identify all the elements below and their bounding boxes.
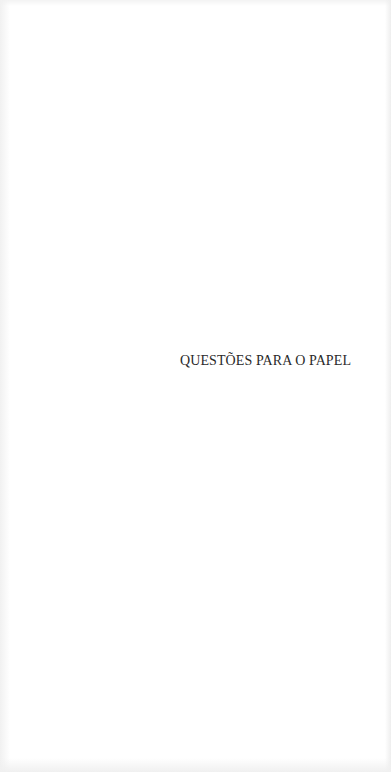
page-edge-right-shadow bbox=[385, 0, 391, 772]
book-page: QUESTÕES PARA O PAPEL bbox=[0, 0, 391, 772]
page-edge-bottom-shadow bbox=[0, 758, 391, 772]
page-edge-top-shadow bbox=[0, 0, 391, 6]
part-title: QUESTÕES PARA O PAPEL bbox=[180, 353, 340, 369]
page-edge-left-shadow bbox=[0, 0, 10, 772]
